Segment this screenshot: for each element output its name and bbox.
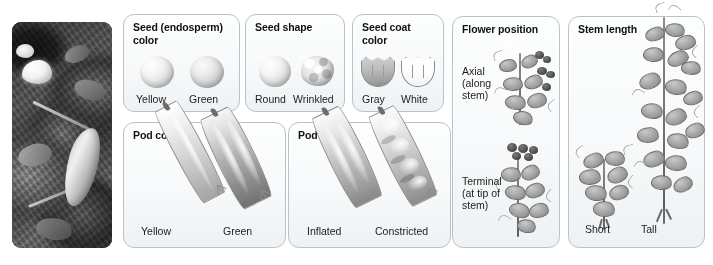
- trait-label-tall: Tall: [641, 223, 657, 235]
- panel-seed-coat-color: Seed coat color Gray White: [352, 14, 444, 112]
- trait-label-inflated: Inflated: [307, 225, 341, 237]
- round-seed-icon: [190, 56, 224, 88]
- white-seed-coat-icon: [401, 57, 435, 87]
- trait-label-wrinkled: Wrinkled: [293, 93, 334, 105]
- trait-label-round: Round: [255, 93, 286, 105]
- tall-pea-plant-icon: [631, 3, 707, 229]
- pea-trait-figure: Seed (endosperm) color Yellow Green Seed…: [0, 0, 713, 265]
- trait-label-constricted: Constricted: [375, 225, 428, 237]
- axial-flower-plant-icon: [491, 47, 561, 127]
- panel-title-stem-length: Stem length: [578, 23, 637, 36]
- panel-seed-color: Seed (endosperm) color Yellow Green: [123, 14, 240, 112]
- panel-stem-length: Stem length: [568, 16, 705, 248]
- panel-flower-position: Flower position Axial (along stem): [452, 16, 560, 248]
- panel-title-seed-coat-color: Seed coat color: [362, 21, 411, 46]
- wrinkled-seed-icon: [301, 56, 334, 86]
- trait-label-axial: Axial (along stem): [462, 65, 491, 101]
- trait-label-gray: Gray: [362, 93, 385, 105]
- round-seed-icon: [140, 56, 174, 88]
- trait-label-yellow-pod: Yellow: [141, 225, 171, 237]
- gray-seed-coat-icon: [361, 57, 395, 87]
- trait-label-terminal: Terminal (at tip of stem): [462, 175, 502, 211]
- terminal-flower-plant-icon: [495, 143, 561, 239]
- panel-title-seed-shape: Seed shape: [255, 21, 312, 34]
- panel-title-seed-color: Seed (endosperm) color: [133, 21, 223, 46]
- trait-label-white: White: [401, 93, 428, 105]
- pea-plant-photograph: [12, 22, 112, 248]
- round-seed-icon: [259, 56, 291, 87]
- photo-flower-bud: [16, 44, 34, 58]
- trait-label-green: Green: [189, 93, 218, 105]
- trait-label-short: Short: [585, 223, 610, 235]
- trait-label-green-pod: Green: [223, 225, 252, 237]
- photo-white-flower: [22, 60, 52, 84]
- panel-title-flower-position: Flower position: [462, 23, 538, 36]
- panel-seed-shape: Seed shape Round Wrinkled: [245, 14, 345, 112]
- panel-pod-shape: Pod shape: [288, 122, 451, 248]
- panel-pod-color: Pod color Yellow Green: [123, 122, 286, 248]
